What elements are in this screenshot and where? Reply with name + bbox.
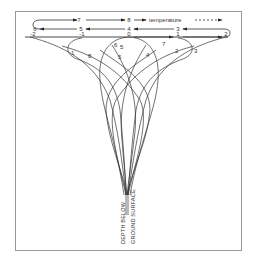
curve-label-1: 1 xyxy=(71,50,75,56)
label-minus-1: -1 xyxy=(79,31,85,37)
temperature-depth-diagram: 7 8 temperature 6 5 4 3 -2 -1 0 1 2 1 8 … xyxy=(0,0,254,264)
label-2: 2 xyxy=(224,31,228,37)
curve-label-3: 3 xyxy=(194,48,198,54)
curve-label-6: 6 xyxy=(114,42,118,48)
curve-label-5a: 5 xyxy=(120,44,124,50)
surface-row-labels: -2 -1 0 1 2 xyxy=(30,31,228,37)
temperature-profile-curves xyxy=(30,37,226,215)
temperature-label: temperature xyxy=(149,17,182,23)
temperature-cycle-arrows xyxy=(33,20,230,37)
label-minus-2: -2 xyxy=(30,31,36,37)
curve-label-7: 7 xyxy=(162,41,166,47)
label-0: 0 xyxy=(127,31,131,37)
label-7: 7 xyxy=(77,17,81,23)
label-1: 1 xyxy=(176,31,180,37)
depth-below-label: DEPTH BELOW xyxy=(120,201,126,244)
curve-label-8: 8 xyxy=(88,53,92,59)
label-8: 8 xyxy=(127,17,131,23)
ground-surface-label: GROUND SURFACE xyxy=(130,189,136,244)
curve-label-5b: 5 xyxy=(118,54,122,60)
